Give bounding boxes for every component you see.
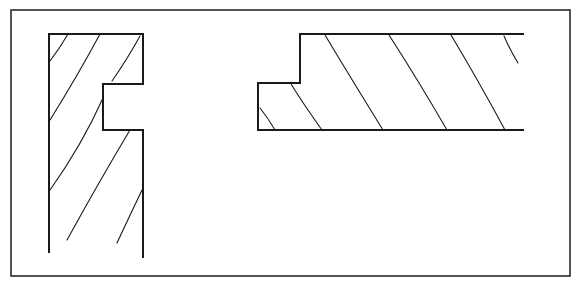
grain-line [451, 35, 505, 130]
grain-line [117, 188, 143, 243]
grain-line [50, 34, 100, 120]
grain-line [260, 108, 275, 130]
profile-outline [258, 34, 524, 130]
profiles-group [49, 34, 524, 258]
horizontal-rabbeted-board [258, 34, 524, 130]
diagram-canvas [0, 0, 578, 286]
vertical-grooved-board [49, 34, 143, 258]
grain-line [50, 98, 103, 190]
grain-line [325, 35, 383, 130]
grain-line [389, 35, 447, 130]
profile-drawing [0, 0, 578, 286]
grain-line [112, 36, 140, 81]
grain-line [291, 84, 322, 130]
grain-line [50, 34, 68, 61]
grain-line [67, 130, 130, 240]
profile-outline [49, 34, 143, 258]
grain-line [504, 36, 518, 63]
outer-frame [11, 10, 570, 276]
